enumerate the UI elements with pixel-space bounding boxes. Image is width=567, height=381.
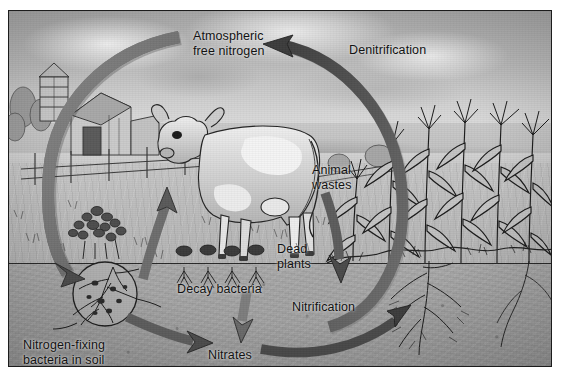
label-decay-bacteria: Decay bacteria [177, 282, 262, 297]
wastes-arc-arrow [325, 193, 351, 283]
label-nitrogen-fixing-bacteria-in-soil: Nitrogen-fixing bacteria in soil [23, 338, 105, 367]
label-nitrification: Nitrification [292, 300, 355, 315]
uptake-arc-arrow [143, 187, 177, 279]
nitrogen-cycle-figure: Atmospheric free nitrogen Denitrificatio… [8, 10, 552, 367]
cycle-arrows [9, 11, 552, 367]
label-nitrates: Nitrates [208, 348, 252, 363]
illustration-scene: Atmospheric free nitrogen Denitrificatio… [9, 11, 551, 366]
label-atmospheric-free-nitrogen: Atmospheric free nitrogen [193, 29, 264, 58]
nodule-arrow [127, 317, 213, 353]
label-animal-wastes: Animal wastes [312, 163, 352, 192]
label-denitrification: Denitrification [349, 43, 426, 58]
label-dead-plants: Dead plants [277, 242, 311, 271]
decay-arrow [233, 291, 253, 343]
page-root: Atmospheric free nitrogen Denitrificatio… [0, 0, 567, 381]
fixation-arc-arrow [48, 37, 180, 287]
